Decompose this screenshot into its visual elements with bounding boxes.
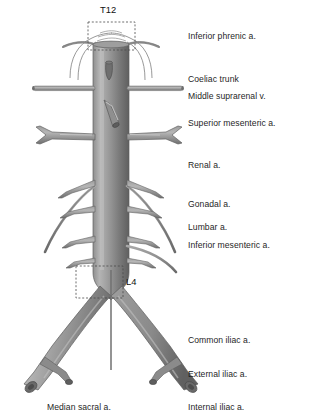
- label-superior-mesenteric: Superior mesenteric a.: [188, 118, 276, 128]
- label-coeliac-trunk: Coeliac trunk: [188, 74, 239, 84]
- label-common-iliac: Common iliac a.: [188, 335, 250, 345]
- label-internal-iliac: Internal iliac a.: [188, 402, 244, 412]
- abdominal-aorta-diagram: [0, 0, 316, 418]
- vertebra-label-t12: T12: [100, 4, 116, 15]
- label-lumbar: Lumbar a.: [188, 222, 227, 232]
- abdominal-aorta-trunk: [93, 44, 129, 300]
- label-external-iliac: External iliac a.: [188, 369, 247, 379]
- label-median-sacral: Median sacral a.: [47, 402, 111, 412]
- aorta-highlight: [100, 46, 104, 270]
- aortic-hiatus-lines: [97, 31, 126, 41]
- label-middle-suprarenal: Middle suprarenal v.: [188, 91, 266, 101]
- label-inferior-mesenteric: Inferior mesenteric a.: [188, 240, 270, 250]
- vertebra-label-l4: L4: [126, 276, 136, 287]
- label-inferior-phrenic: Inferior phrenic a.: [188, 31, 256, 41]
- aorta-top-rim: [93, 41, 129, 48]
- label-gonadal: Gonadal a.: [188, 199, 231, 209]
- label-renal: Renal a.: [188, 160, 220, 170]
- external-iliac-cut-ends: [23, 379, 199, 394]
